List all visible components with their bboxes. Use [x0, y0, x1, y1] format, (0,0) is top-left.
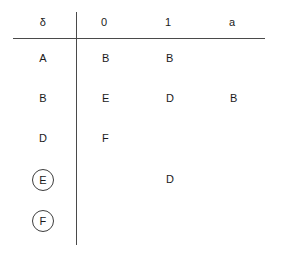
state-column-rule-vertical: [76, 12, 77, 245]
cell-a-1: B: [166, 53, 174, 64]
state-label-e: E: [32, 169, 54, 191]
header-transition-symbol: δ: [27, 17, 59, 28]
state-label-a: A: [26, 53, 60, 64]
cell-b-0: E: [102, 93, 110, 104]
cell-e-1: D: [166, 174, 174, 185]
accepting-state-e: E: [32, 169, 54, 191]
header-column-2: a: [229, 17, 235, 28]
transition-table: δ 0 1 a A B B B E D B D F E D F: [0, 0, 283, 259]
cell-d-0: F: [102, 133, 109, 144]
state-label-f: F: [32, 210, 54, 232]
cell-b-a: B: [230, 93, 238, 104]
cell-b-1: D: [166, 93, 174, 104]
cell-a-0: B: [102, 53, 110, 64]
state-label-d: D: [26, 133, 60, 144]
header-column-0: 0: [101, 17, 107, 28]
header-rule-horizontal: [13, 38, 265, 39]
state-label-b: B: [26, 93, 60, 104]
accepting-state-f: F: [32, 210, 54, 232]
header-column-1: 1: [165, 17, 171, 28]
